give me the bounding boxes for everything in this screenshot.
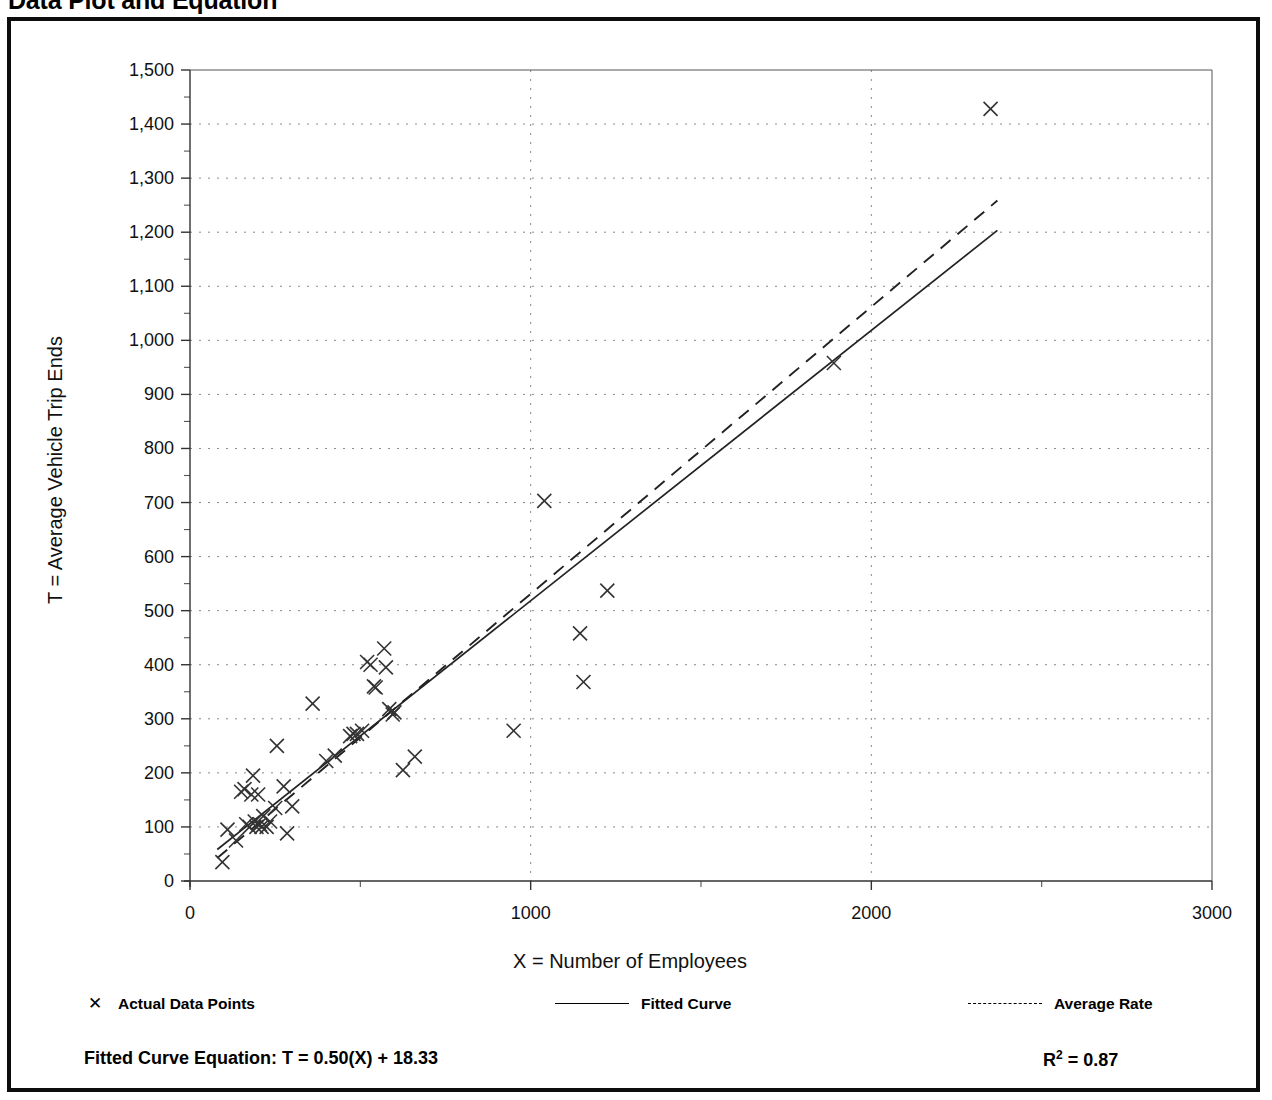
r-squared-annotation: R2 = 0.87 [1043,1048,1118,1071]
data-point-marker [220,823,234,837]
data-point-marker [246,769,260,783]
data-point-marker [280,826,294,840]
x-marker-icon: ✕ [84,997,106,1011]
data-point-marker [576,675,590,689]
y-tick-label: 100 [144,817,174,837]
r-squared-exponent: 2 [1056,1048,1063,1062]
legend-item-fitted-curve: Fitted Curve [555,995,731,1013]
data-points [215,102,997,869]
x-tick-label: 3000 [1192,903,1232,923]
y-axis-ticks: 01002003004005006007008009001,0001,1001,… [129,60,190,891]
data-point-marker [270,739,284,753]
x-axis-ticks: 0100020003000 [185,881,1232,923]
solid-line-icon [555,997,629,1011]
data-point-marker [377,642,391,656]
y-tick-label: 900 [144,384,174,404]
data-point-marker [238,782,252,796]
data-point-marker [263,815,277,829]
y-tick-label: 700 [144,493,174,513]
fitted-curve-equation: Fitted Curve Equation: T = 0.50(X) + 18.… [84,1048,438,1069]
data-point-marker [364,658,378,672]
data-point-marker [306,697,320,711]
y-tick-label: 500 [144,601,174,621]
y-tick-label: 0 [164,871,174,891]
y-tick-label: 800 [144,438,174,458]
equation-row: Fitted Curve Equation: T = 0.50(X) + 18.… [0,1048,1272,1080]
trend-lines [217,201,997,858]
dashed-line-icon [968,997,1042,1011]
data-point-marker [244,787,258,801]
r-squared-value: = 0.87 [1068,1050,1119,1070]
chart-figure: 01002003004005006007008009001,0001,1001,… [0,0,1272,1100]
x-tick-label: 2000 [851,903,891,923]
data-point-marker [285,799,299,813]
chart-legend: ✕ Actual Data Points Fitted Curve Averag… [0,995,1272,1025]
y-tick-label: 600 [144,547,174,567]
x-tick-label: 0 [185,903,195,923]
y-tick-label: 400 [144,655,174,675]
y-tick-label: 1,500 [129,60,174,80]
y-tick-label: 1,300 [129,168,174,188]
y-tick-label: 200 [144,763,174,783]
data-point-marker [507,724,521,738]
data-point-marker [215,855,229,869]
data-point-marker [379,660,393,674]
axis-lines [184,70,1212,887]
data-point-marker [251,787,265,801]
legend-item-actual-data-points: ✕ Actual Data Points [84,995,255,1013]
x-axis-title: X = Number of Employees [513,950,747,972]
y-tick-label: 300 [144,709,174,729]
grid-lines [190,70,1212,881]
y-tick-label: 1,200 [129,222,174,242]
legend-label: Actual Data Points [118,995,255,1013]
x-tick-label: 1000 [511,903,551,923]
data-point-marker [537,494,551,508]
data-point-marker [573,626,587,640]
data-point-marker [277,779,291,793]
y-tick-label: 1,100 [129,276,174,296]
legend-item-average-rate: Average Rate [968,995,1153,1013]
y-axis-title: T = Average Vehicle Trip Ends [44,336,66,604]
scatter-plot-svg: 01002003004005006007008009001,0001,1001,… [0,0,1272,1100]
average-rate-line [217,201,997,858]
data-point-marker [408,750,422,764]
r-squared-symbol: R [1043,1050,1056,1070]
data-point-marker [369,680,383,694]
data-point-marker [984,102,998,116]
y-tick-label: 1,400 [129,114,174,134]
legend-label: Fitted Curve [641,995,731,1013]
legend-label: Average Rate [1054,995,1153,1013]
data-point-marker [396,763,410,777]
y-tick-label: 1,000 [129,330,174,350]
data-point-marker [600,584,614,598]
